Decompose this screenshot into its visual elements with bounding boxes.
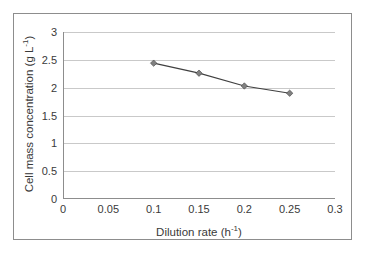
y-tick-label: 0 bbox=[51, 194, 57, 205]
series-line bbox=[154, 63, 290, 93]
y-tick-label: 1.5 bbox=[42, 110, 57, 121]
x-tick-label: 0.2 bbox=[237, 204, 252, 215]
y-tick-label: 1 bbox=[51, 138, 57, 149]
x-axis-title-base: Dilution rate (h bbox=[156, 226, 231, 238]
x-axis-title-close: ) bbox=[238, 226, 242, 238]
x-tick-label: 0.3 bbox=[327, 204, 342, 215]
y-axis-title-superscript: -1 bbox=[21, 40, 30, 47]
data-point-marker bbox=[286, 90, 292, 96]
x-tick-label: 0 bbox=[60, 204, 66, 215]
x-tick-label: 0.15 bbox=[188, 204, 209, 215]
data-point-marker bbox=[241, 83, 247, 89]
y-tick-label: 0.5 bbox=[42, 166, 57, 177]
y-axis-title-base: Cell mass concentration (g L bbox=[23, 47, 35, 193]
plot-area: 00.511.522.53 00.050.10.150.20.250.3 bbox=[63, 32, 335, 199]
data-point-marker bbox=[196, 70, 202, 76]
x-axis-title: Dilution rate (h-1) bbox=[63, 222, 335, 239]
data-series-layer bbox=[63, 32, 335, 199]
x-tick-label: 0.25 bbox=[279, 204, 300, 215]
y-tick-label: 2.5 bbox=[42, 54, 57, 65]
x-axis-title-superscript: -1 bbox=[231, 224, 238, 233]
y-tick-label: 2 bbox=[51, 82, 57, 93]
data-point-marker bbox=[150, 60, 156, 66]
chart-figure: Cell mass concentration (g L-1) Dilution… bbox=[0, 0, 372, 254]
x-tick-label: 0.1 bbox=[146, 204, 161, 215]
y-axis-title-close: ) bbox=[23, 36, 35, 40]
y-tick-label: 3 bbox=[51, 27, 57, 38]
y-axis-title: Cell mass concentration (g L-1) bbox=[18, 24, 34, 204]
x-tick-label: 0.05 bbox=[98, 204, 119, 215]
